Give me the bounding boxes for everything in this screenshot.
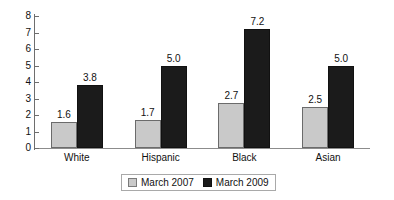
y-axis-tick <box>34 132 39 133</box>
bar-value-label: 2.7 <box>214 90 248 101</box>
y-axis-tick <box>34 82 39 83</box>
bar-value-label: 1.6 <box>47 109 81 120</box>
y-axis-tick-label-wrap: 1 <box>0 127 31 137</box>
y-axis-tick-label: 7 <box>3 28 31 38</box>
bar-chart: 012345678 1.63.81.75.02.77.22.55.0 White… <box>0 0 394 200</box>
legend-item-march-2007: March 2007 <box>128 178 194 188</box>
y-axis-tick <box>34 49 39 50</box>
y-axis-tick-label: 8 <box>3 11 31 21</box>
y-axis-tick-label: 2 <box>3 110 31 120</box>
category-label: Black <box>199 152 289 164</box>
bar-group: 1.63.8 <box>51 16 103 148</box>
y-axis-tick-label-wrap: 0 <box>0 143 31 153</box>
bar-value-label: 7.2 <box>240 16 274 27</box>
y-axis-tick-label: 0 <box>3 143 31 153</box>
bar-value-label: 2.5 <box>298 94 332 105</box>
bar-group: 2.77.2 <box>218 16 270 148</box>
bar-value-label: 5.0 <box>324 53 358 64</box>
category-label: Asian <box>283 152 373 164</box>
bar-value-label: 1.7 <box>131 107 165 118</box>
y-axis-tick <box>34 148 39 149</box>
gray-swatch-icon <box>128 178 137 187</box>
y-axis-tick-label-wrap: 8 <box>0 11 31 21</box>
bar-march-2007 <box>302 107 328 148</box>
y-axis-tick <box>34 16 39 17</box>
y-axis-tick-label-wrap: 3 <box>0 94 31 104</box>
bar-march-2009 <box>161 66 187 149</box>
y-axis-tick-label-wrap: 2 <box>0 110 31 120</box>
black-swatch-icon <box>203 178 212 187</box>
y-axis-tick-label: 6 <box>3 44 31 54</box>
y-axis-tick <box>34 115 39 116</box>
bar-value-label: 5.0 <box>157 53 191 64</box>
y-axis-tick <box>34 33 39 34</box>
legend-label: March 2007 <box>141 178 194 188</box>
category-label: White <box>32 152 122 164</box>
y-axis-tick-label-wrap: 4 <box>0 77 31 87</box>
bar-march-2007 <box>218 103 244 148</box>
bar-march-2009 <box>328 66 354 149</box>
bar-group: 2.55.0 <box>302 16 354 148</box>
x-axis-line <box>34 148 370 149</box>
bar-group: 1.75.0 <box>135 16 187 148</box>
legend-item-march-2009: March 2009 <box>203 178 269 188</box>
bar-march-2009 <box>77 85 103 148</box>
y-axis-tick-label: 1 <box>3 127 31 137</box>
chart-legend: March 2007 March 2009 <box>121 174 276 191</box>
y-axis-tick <box>34 66 39 67</box>
y-axis-tick-label-wrap: 5 <box>0 61 31 71</box>
bar-march-2007 <box>51 122 77 148</box>
bar-march-2007 <box>135 120 161 148</box>
y-axis-tick-label: 5 <box>3 61 31 71</box>
legend-label: March 2009 <box>216 178 269 188</box>
y-axis-tick-label-wrap: 7 <box>0 28 31 38</box>
bar-value-label: 3.8 <box>73 72 107 83</box>
y-axis-tick-label: 4 <box>3 77 31 87</box>
y-axis-tick <box>34 99 39 100</box>
category-label: Hispanic <box>116 152 206 164</box>
bar-march-2009 <box>244 29 270 148</box>
y-axis-tick-label: 3 <box>3 94 31 104</box>
y-axis-tick-label-wrap: 6 <box>0 44 31 54</box>
